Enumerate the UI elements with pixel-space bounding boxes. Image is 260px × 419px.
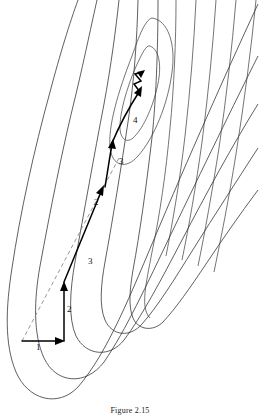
step-label-3b: 3 [119, 157, 124, 166]
arrow-head-step-4 [134, 86, 142, 97]
contour-level-4 [101, 0, 258, 333]
step-label-2b: 2 [94, 198, 99, 207]
path-step-2b [105, 145, 112, 187]
figure-container: 1 2 3 2 3 4 Figure 2.15 [0, 0, 260, 419]
step-label-3: 3 [88, 257, 93, 266]
contour-level-2 [36, 0, 258, 379]
contour-plot [0, 0, 260, 419]
contour-lines [7, 0, 258, 399]
contour-level-9 [198, 0, 236, 266]
step-label-1: 1 [36, 343, 41, 352]
arrow-head-step-3 [96, 185, 104, 196]
contour-level-10 [214, 0, 256, 272]
contour-level-3 [71, 0, 258, 352]
contour-level-1 [7, 0, 258, 399]
step-label-4: 4 [133, 116, 138, 125]
step-label-2: 2 [67, 305, 72, 314]
arrow-head-step-2b [108, 139, 116, 149]
figure-caption: Figure 2.15 [0, 406, 260, 415]
